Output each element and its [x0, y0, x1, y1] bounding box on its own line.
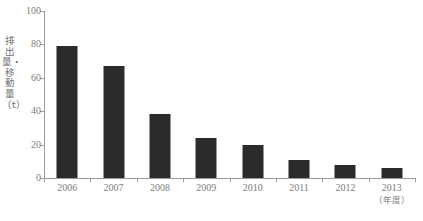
bars-layer — [44, 11, 415, 178]
x-axis-label-2009: 2009 — [183, 181, 229, 194]
x-axis-label-text: 2009 — [196, 182, 216, 193]
x-axis-unit-note: （年度） — [369, 194, 415, 206]
x-axis-labels: 20062007200820092010201120122013（年度） — [44, 181, 415, 217]
x-axis-label-2006: 2006 — [44, 181, 90, 194]
bar-slot-2006 — [44, 11, 90, 178]
y-tick-label: 20 — [31, 138, 41, 151]
x-axis-label-2008: 2008 — [137, 181, 183, 194]
x-axis-label-2007: 2007 — [90, 181, 136, 194]
y-axis-title: 排出量・移動量（t） — [2, 36, 18, 156]
bar-slot-2012 — [322, 11, 368, 178]
bar-2007 — [103, 66, 124, 178]
x-axis-label-text: 2013 — [382, 182, 402, 193]
bar-2009 — [196, 138, 217, 178]
bar-2013 — [381, 168, 402, 178]
x-axis-label-2012: 2012 — [322, 181, 368, 194]
x-axis-label-text: 2007 — [104, 182, 124, 193]
bar-2006 — [57, 46, 78, 178]
bar-slot-2008 — [137, 11, 183, 178]
x-axis-label-text: 2011 — [289, 182, 309, 193]
bar-slot-2013 — [369, 11, 415, 178]
x-axis-label-2010: 2010 — [230, 181, 276, 194]
x-axis-label-text: 2006 — [57, 182, 77, 193]
y-tick-label: 0 — [36, 171, 41, 184]
x-axis-label-text: 2012 — [335, 182, 355, 193]
bar-slot-2010 — [230, 11, 276, 178]
x-axis-label-text: 2010 — [243, 182, 263, 193]
y-tick-label: 80 — [31, 37, 41, 50]
x-axis-label-text: 2008 — [150, 182, 170, 193]
bar-2012 — [335, 165, 356, 178]
x-axis-label-2013: 2013（年度） — [369, 181, 415, 206]
y-tick-label: 40 — [31, 104, 41, 117]
bar-slot-2011 — [276, 11, 322, 178]
y-tick-label: 60 — [31, 71, 41, 84]
x-axis-label-2011: 2011 — [276, 181, 322, 194]
bar-slot-2009 — [183, 11, 229, 178]
x-tick-mark — [415, 178, 416, 182]
plot-area: 020406080100 — [44, 11, 415, 178]
bar-slot-2007 — [90, 11, 136, 178]
bar-2008 — [149, 114, 170, 178]
bar-2011 — [289, 160, 310, 178]
bar-2010 — [242, 145, 263, 178]
y-tick-label: 100 — [26, 4, 41, 17]
bar-chart-figure: 排出量・移動量（t） 020406080100 2006200720082009… — [0, 0, 423, 221]
